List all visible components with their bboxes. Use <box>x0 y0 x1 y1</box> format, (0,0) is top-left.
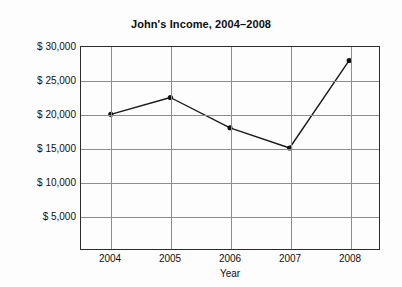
series-line <box>81 47 379 249</box>
y-axis-tick-label: $ 25,000 <box>4 75 76 86</box>
y-axis-tick-label: $ 20,000 <box>4 109 76 120</box>
gridline-vertical <box>291 47 292 249</box>
x-axis-tick-label: 2005 <box>159 253 181 264</box>
gridline-vertical <box>351 47 352 249</box>
x-axis-tick-label: 2006 <box>219 253 241 264</box>
y-axis-tick-label: $ 10,000 <box>4 177 76 188</box>
gridline-horizontal <box>81 81 379 82</box>
x-axis-tick-label: 2008 <box>339 253 361 264</box>
gridline-vertical <box>171 47 172 249</box>
data-line <box>111 60 349 148</box>
x-axis-tick-label: 2007 <box>279 253 301 264</box>
gridline-vertical <box>111 47 112 249</box>
gridline-horizontal <box>81 149 379 150</box>
y-axis-tick-label: $ 15,000 <box>4 143 76 154</box>
gridline-horizontal <box>81 183 379 184</box>
y-axis-tick-label: $ 5,000 <box>4 211 76 222</box>
gridline-horizontal <box>81 115 379 116</box>
x-axis-tick-labels: 20042005200620072008 <box>80 253 380 269</box>
gridline-horizontal <box>81 217 379 218</box>
plot-area <box>80 46 380 250</box>
chart-title: John's Income, 2004–2008 <box>0 18 402 30</box>
income-line-chart: John's Income, 2004–2008 $ 5,000$ 10,000… <box>0 0 402 287</box>
gridline-vertical <box>231 47 232 249</box>
x-axis-tick-label: 2004 <box>99 253 121 264</box>
y-axis-tick-label: $ 30,000 <box>4 41 76 52</box>
y-axis-tick-labels: $ 5,000$ 10,000$ 15,000$ 20,000$ 25,000$… <box>0 46 76 250</box>
x-axis-title: Year <box>80 268 380 279</box>
